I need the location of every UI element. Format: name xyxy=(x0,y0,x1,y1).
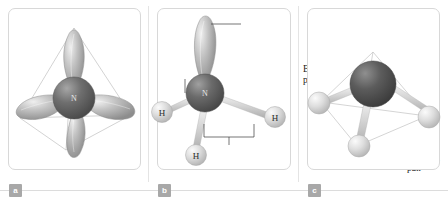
caption-rule-b xyxy=(149,190,299,191)
caption-rule-a xyxy=(0,190,149,191)
caption-unit-a: a xyxy=(0,180,149,205)
hydrogen-atom-right: H xyxy=(265,107,286,128)
hydrogen-atom-front xyxy=(348,135,370,157)
hydrogen-atom-left xyxy=(308,92,330,114)
panel-b: N H H H Lone pair Bo xyxy=(149,0,299,180)
panel-a: N xyxy=(0,0,149,180)
nitrogen-atom xyxy=(350,61,396,107)
nitrogen-label: N xyxy=(71,94,77,103)
caption-row: a b c xyxy=(0,180,448,205)
figure-ammonia-hybridization: N xyxy=(0,0,448,205)
caption-unit-b: b xyxy=(149,180,299,205)
panel-badge-b: b xyxy=(158,184,171,197)
bond-front xyxy=(193,108,207,150)
panel-badge-c: c xyxy=(308,184,321,197)
panel-a-artwork: N xyxy=(0,0,149,180)
leader-bonding-bracket xyxy=(204,124,254,137)
nitrogen-atom: N xyxy=(53,77,95,119)
panel-badge-a: a xyxy=(9,184,22,197)
hydrogen-label: H xyxy=(193,151,200,161)
panel-b-artwork: N H H H xyxy=(149,0,299,180)
hydrogen-atom-left: H xyxy=(152,102,173,123)
hydrogen-label: H xyxy=(159,108,166,118)
nitrogen-atom: N xyxy=(186,74,224,112)
caption-unit-c: c xyxy=(299,180,448,205)
nitrogen-label: N xyxy=(202,89,208,98)
bond-right xyxy=(217,95,267,118)
hydrogen-atom-right xyxy=(418,106,440,128)
caption-rule-c xyxy=(299,190,448,191)
panel-c-artwork xyxy=(299,0,448,180)
panel-c xyxy=(299,0,448,180)
hydrogen-atom-front: H xyxy=(186,145,207,166)
hydrogen-label: H xyxy=(272,113,279,123)
